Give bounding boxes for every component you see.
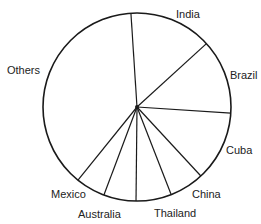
slice-boundary-thailand <box>136 107 137 201</box>
slice-boundary-india <box>137 44 206 107</box>
label-brazil: Brazil <box>230 69 258 81</box>
label-thailand: Thailand <box>154 207 196 219</box>
label-australia: Australia <box>78 208 122 220</box>
pie-center-dot <box>135 105 139 109</box>
label-cuba: Cuba <box>226 144 253 156</box>
slice-boundaries <box>78 13 231 201</box>
slice-boundary-brazil <box>137 107 231 113</box>
slice-boundary-start <box>131 13 137 107</box>
label-others: Others <box>7 64 41 76</box>
slice-boundary-australia <box>104 107 137 195</box>
slice-boundary-china <box>137 107 171 195</box>
label-mexico: Mexico <box>51 188 86 200</box>
pie-chart: India Brazil Cuba China Thailand Austral… <box>0 0 261 224</box>
slice-boundary-cuba <box>137 107 201 176</box>
label-india: India <box>176 8 201 20</box>
label-china: China <box>192 188 222 200</box>
slice-boundary-mexico <box>78 107 137 180</box>
